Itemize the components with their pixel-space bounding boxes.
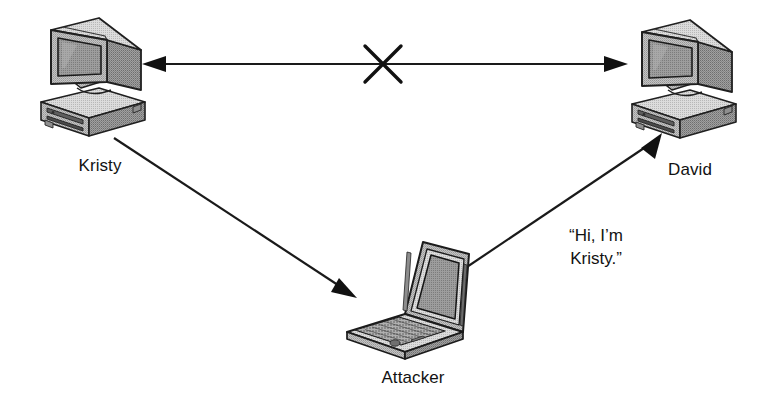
desktop-computer-icon-kristy xyxy=(41,18,145,136)
arrowhead-toward-david-from-attacker xyxy=(641,133,662,159)
desktop-computer-icon-david xyxy=(632,20,736,138)
network-diagram-canvas xyxy=(0,0,765,410)
connection-kristy-attacker-line xyxy=(114,138,344,289)
laptop-computer-icon-attacker xyxy=(347,242,469,359)
arrowhead-toward-david xyxy=(604,56,628,72)
arrowhead-toward-kristy xyxy=(142,56,166,72)
connection-kristy-david xyxy=(142,46,628,82)
node-label-david: David xyxy=(668,160,712,180)
connection-kristy-attacker xyxy=(114,138,357,298)
spoofed-message-label: “Hi, I’m Kristy.” xyxy=(531,224,661,270)
node-label-attacker: Attacker xyxy=(381,368,444,388)
arrowhead-toward-attacker xyxy=(331,278,357,298)
node-label-kristy: Kristy xyxy=(78,156,121,176)
